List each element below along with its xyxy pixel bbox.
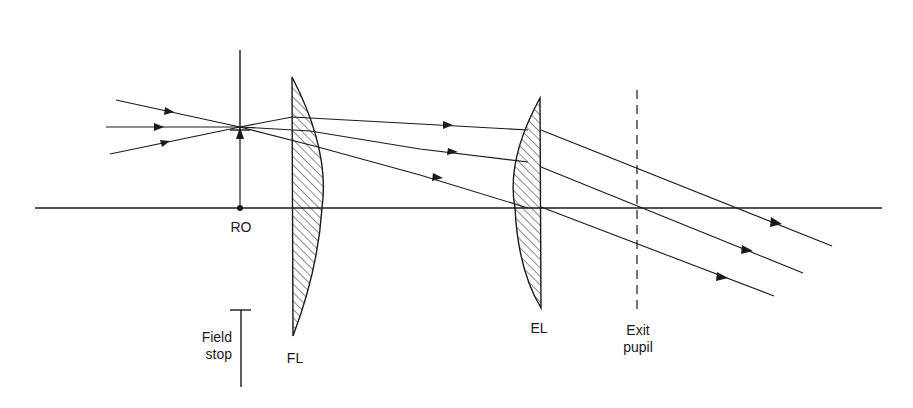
label-ro: RO [225, 219, 257, 236]
middle-rays [240, 117, 528, 208]
field-stop-bottom [230, 310, 251, 387]
label-exit-pupil-line1: Exit [616, 322, 660, 339]
field-stop-top [230, 50, 250, 130]
field-lens [292, 77, 323, 336]
optics-diagram [0, 0, 913, 408]
incoming-rays [106, 100, 240, 154]
label-fl: FL [280, 350, 310, 367]
label-field-stop-line1: Field [186, 329, 232, 346]
diagram-canvas: RO Field stop FL EL Exit pupil [0, 0, 913, 408]
label-exit-pupil-line2: pupil [616, 339, 660, 356]
label-el: EL [524, 320, 554, 337]
label-field-stop-line2: stop [186, 346, 232, 363]
outgoing-rays [541, 130, 832, 296]
real-object-arrow [236, 127, 244, 211]
